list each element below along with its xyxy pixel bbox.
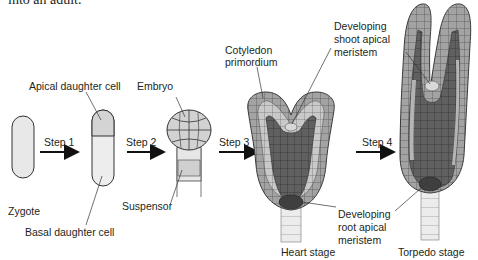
root-meristem-label-3: meristem xyxy=(338,234,381,246)
shoot-meristem-label-1: Developing xyxy=(334,20,387,32)
embryo-label: Embryo xyxy=(137,80,173,92)
step-1-label: Step 1 xyxy=(44,136,74,148)
shoot-meristem-label-2: shoot apical xyxy=(334,33,390,45)
cotyledon-primordium-label-2: primordium xyxy=(225,56,278,68)
basal-cell-leader xyxy=(86,176,102,225)
heart-stage-label: Heart stage xyxy=(281,246,335,258)
heart-stage-embryo xyxy=(248,92,335,242)
zygote-cell xyxy=(12,116,34,178)
suspensor-label: Suspensor xyxy=(122,200,172,212)
basal-daughter-cell-label: Basal daughter cell xyxy=(25,226,114,238)
root-meristem-label-2: root apical xyxy=(338,221,386,233)
zygote-label: Zygote xyxy=(8,205,40,217)
torpedo-stage-label: Torpedo stage xyxy=(398,246,465,258)
cotyledon-primordium-label-1: Cotyledon xyxy=(225,44,272,56)
embryo-development-diagram xyxy=(0,0,478,260)
shoot-meristem-label-3: meristem xyxy=(334,46,377,58)
two-cell-embryo xyxy=(92,110,114,186)
step-2-label: Step 2 xyxy=(126,136,156,148)
step-4-label: Step 4 xyxy=(362,136,392,148)
apical-daughter-cell-label: Apical daughter cell xyxy=(29,80,121,92)
step-3-label: Step 3 xyxy=(219,136,249,148)
torpedo-stage-embryo xyxy=(400,4,471,240)
globular-embryo xyxy=(167,110,211,197)
root-meristem-label-1: Developing xyxy=(338,208,391,220)
